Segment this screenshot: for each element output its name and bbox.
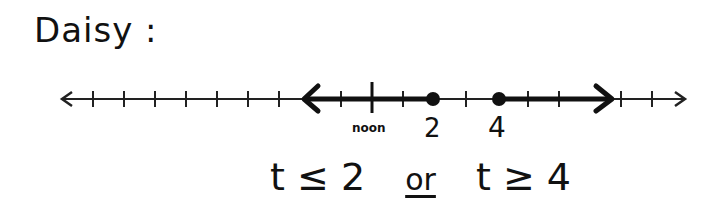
label-4: 4 xyxy=(488,111,506,144)
label-noon: noon xyxy=(352,121,386,135)
solution-statement: t ≤ 2 or t ≥ 4 xyxy=(270,155,571,199)
solution-left: t ≤ 2 xyxy=(270,155,365,199)
closed-point-4 xyxy=(492,92,506,106)
solution-right: t ≥ 4 xyxy=(476,155,571,199)
solution-connector-or: or xyxy=(405,162,436,197)
closed-point-2 xyxy=(426,92,440,106)
label-2: 2 xyxy=(424,113,441,143)
